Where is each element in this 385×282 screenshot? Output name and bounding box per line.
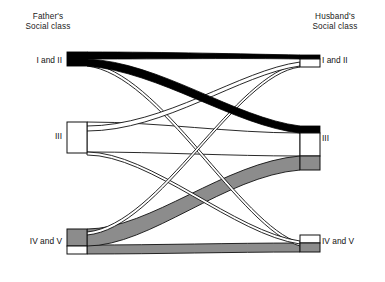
- node-bar-husband-iv-v-white[interactable]: [300, 235, 320, 243]
- ribbon-i-ii-to-i-ii: [87, 52, 300, 59]
- node-bar-husband-i-ii-black[interactable]: [300, 55, 320, 59]
- node-bars-right: [300, 55, 320, 252]
- node-label-husband-iv-v: IV and V: [322, 236, 382, 246]
- node-bar-father-iv-v-gray[interactable]: [67, 229, 87, 246]
- node-bars-left: [67, 52, 87, 254]
- node-bar-father-iii[interactable]: [67, 122, 87, 153]
- node-bar-father-iv-v-white[interactable]: [67, 246, 87, 254]
- node-label-husband-iii: III: [322, 133, 382, 143]
- node-bar-husband-iii-black[interactable]: [300, 126, 320, 133]
- node-label-father-i-ii: I and II: [6, 55, 62, 65]
- ribbon-ivv-to-ivv: [87, 243, 300, 254]
- ribbon-group: [87, 52, 300, 254]
- node-bar-husband-iii-gray[interactable]: [300, 156, 320, 170]
- father-axis-heading: Father's Social class: [6, 12, 90, 32]
- node-label-father-iv-v: IV and V: [2, 236, 62, 246]
- node-bar-husband-iv-v-gray[interactable]: [300, 243, 320, 252]
- node-bar-husband-iii-white[interactable]: [300, 133, 320, 156]
- node-label-husband-i-ii: I and II: [322, 55, 382, 65]
- node-bar-husband-i-ii-white[interactable]: [300, 59, 320, 67]
- node-label-father-iii: III: [6, 131, 62, 141]
- husband-axis-heading: Husband's Social class: [292, 12, 378, 32]
- node-bar-father-i-ii[interactable]: [67, 52, 87, 66]
- mobility-flow-diagram: Father's Social class Husband's Social c…: [0, 0, 385, 282]
